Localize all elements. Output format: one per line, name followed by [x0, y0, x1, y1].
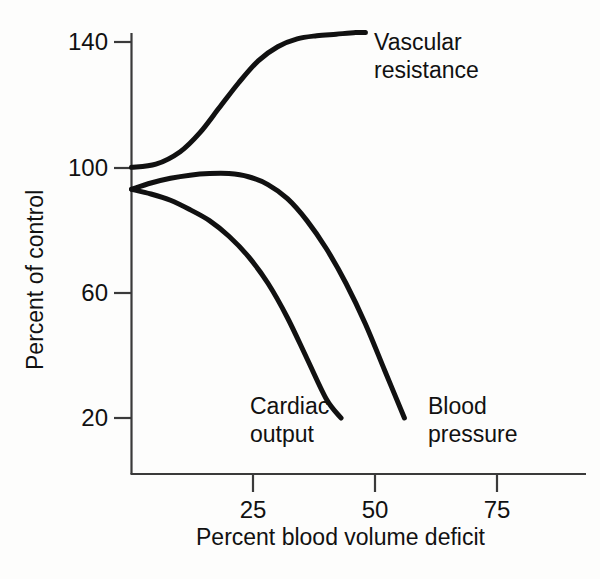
- x-tick-label-75: 75: [467, 496, 527, 524]
- series-line-blood-pressure: [132, 173, 405, 418]
- series-label-vascular-resistance: Vascular resistance: [374, 28, 479, 84]
- series-line-vascular-resistance: [132, 32, 366, 167]
- series-label-cardiac-output: Cardiac output: [250, 392, 329, 448]
- y-tick-label-140: 140: [56, 28, 108, 56]
- x-tick-label-50: 50: [345, 496, 405, 524]
- x-axis-title: Percent blood volume deficit: [196, 524, 485, 551]
- chart-figure: 140 100 60 20 25 50 75 Percent of contro…: [0, 0, 600, 579]
- x-tick-label-25: 25: [223, 496, 283, 524]
- series-label-blood-pressure: Blood pressure: [428, 392, 517, 448]
- y-axis-title: Percent of control: [22, 190, 49, 370]
- y-tick-label-20: 20: [56, 404, 108, 432]
- y-tick-label-60: 60: [56, 279, 108, 307]
- y-tick-label-100: 100: [56, 154, 108, 182]
